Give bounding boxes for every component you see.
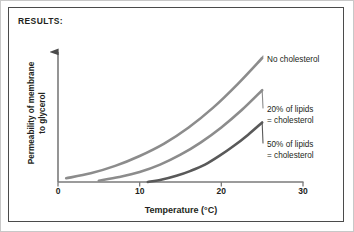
x-axis-tick-label: 0: [46, 186, 70, 196]
chart-series-line: [99, 90, 262, 181]
y-axis-label-line2: to glycerol: [37, 62, 48, 164]
chart-series-group: [66, 58, 262, 182]
series-label-line1: 50% of lipids: [267, 140, 313, 149]
y-axis-label: Permeability of membrane to glycerol: [27, 62, 48, 164]
x-axis-tick-label: 10: [128, 186, 152, 196]
x-axis-tick-label: 30: [291, 186, 315, 196]
series-label-line2: = cholesterol: [267, 116, 314, 125]
series-label-20-percent: 20% of lipids = cholesterol: [267, 104, 314, 126]
y-axis-label-wrapper: Permeability of membrane to glycerol: [17, 42, 57, 184]
x-axis-tick-label: 20: [209, 186, 233, 196]
figure-container: RESULTS: Permeability of membrane to g: [0, 0, 354, 232]
chart-plot-area: Permeability of membrane to glycerol Tem…: [0, 0, 354, 232]
x-axis-label: Temperature (°C): [58, 205, 304, 215]
series-leader-line: [262, 90, 263, 108]
chart-series-line: [148, 122, 262, 182]
x-axis-ticks: [58, 182, 303, 187]
series-label-50-percent: 50% of lipids = cholesterol: [267, 139, 314, 161]
label-leader-lines: [262, 56, 263, 143]
series-label-line1: No cholesterol: [267, 55, 319, 64]
series-leader-line: [262, 56, 263, 58]
series-leader-line: [262, 122, 263, 143]
y-axis-label-line1: Permeability of membrane: [27, 62, 36, 164]
series-label-line2: = cholesterol: [267, 151, 314, 160]
series-label-no-cholesterol: No cholesterol: [267, 54, 319, 65]
series-label-line1: 20% of lipids: [267, 105, 313, 114]
